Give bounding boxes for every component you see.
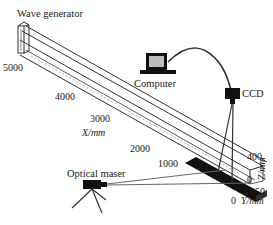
- x-tick-5000: 5000: [3, 62, 23, 73]
- y-tick-0: 0: [231, 195, 236, 206]
- ccd-view-line: [218, 104, 232, 172]
- z-axis-label: Z/mm: [256, 157, 267, 180]
- computer-icon: [140, 53, 176, 74]
- x-tick-2000: 2000: [130, 143, 150, 154]
- x-axis-label: X/mm: [81, 127, 105, 138]
- cable: [168, 48, 232, 93]
- optical-maser-label: Optical maser: [67, 168, 126, 179]
- x-tick-1000: 1000: [158, 158, 178, 169]
- y-axis-label: Y/mm: [241, 195, 264, 206]
- x-tick-3000: 3000: [90, 113, 110, 124]
- x-tick-4000: 4000: [55, 91, 75, 102]
- ccd-camera-icon: [225, 88, 240, 104]
- flume: [20, 26, 267, 184]
- setup-diagram: Wave generator 5000 4000 3000 X/mm 2000 …: [0, 0, 273, 225]
- wave-generator-label: Wave generator: [17, 8, 83, 19]
- optical-maser-icon: [72, 180, 107, 213]
- ccd-label: CCD: [242, 88, 264, 99]
- computer-label: Computer: [134, 78, 176, 89]
- ccd-view-line: [232, 104, 233, 183]
